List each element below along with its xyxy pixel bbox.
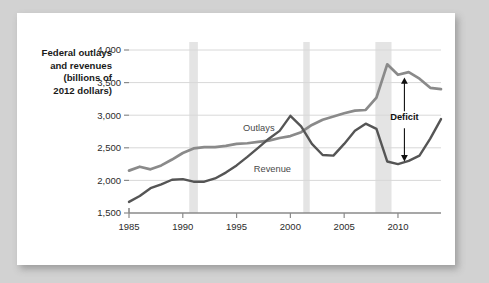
series-label-outlays: Outlays <box>243 123 275 133</box>
x-tick-label: 2005 <box>334 221 355 232</box>
x-tick-label: 1995 <box>226 221 247 232</box>
series-line-revenue <box>129 116 441 202</box>
y-tick-label: 1,500 <box>97 207 121 218</box>
chart-svg: 1,5002,0002,5003,0003,5004,0001985199019… <box>17 13 455 265</box>
deficit-annotation-label: Deficit <box>390 112 418 122</box>
y-axis-title-line: Federal outlays <box>42 47 112 58</box>
x-tick-label: 1990 <box>172 221 193 232</box>
x-tick-label: 2000 <box>280 221 301 232</box>
y-axis-title-line: (billions of <box>64 72 113 83</box>
screenshot-root: 1,5002,0002,5003,0003,5004,0001985199019… <box>0 0 489 283</box>
y-tick-label: 3,000 <box>97 110 121 121</box>
y-axis-title-line: and revenues <box>50 60 112 71</box>
recession-band <box>189 42 198 213</box>
chart-figure: 1,5002,0002,5003,0003,5004,0001985199019… <box>17 13 455 265</box>
x-tick-label: 2010 <box>387 221 408 232</box>
x-tick-label: 1985 <box>118 221 139 232</box>
series-label-revenue: Revenue <box>254 164 291 174</box>
deficit-arrowhead-up <box>401 77 408 83</box>
y-tick-label: 2,500 <box>97 142 121 153</box>
y-axis-title-line: 2012 dollars) <box>53 85 112 96</box>
figure-card: 1,5002,0002,5003,0003,5004,0001985199019… <box>17 13 455 265</box>
y-tick-label: 2,000 <box>97 175 121 186</box>
